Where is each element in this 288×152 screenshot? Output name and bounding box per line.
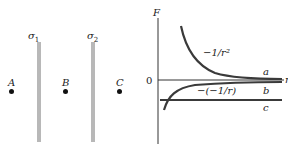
y-axis-label: F — [153, 8, 160, 18]
curve-b-expression: −(−1/r) — [197, 86, 236, 96]
origin-label: 0 — [146, 76, 152, 86]
curve-b-label: b — [263, 86, 269, 96]
curve-a-expression: −1/r² — [203, 48, 230, 58]
x-axis-label: r — [285, 75, 288, 85]
curve-a-label: a — [263, 67, 269, 77]
curve-c-label: c — [263, 103, 269, 113]
force-graph — [0, 0, 288, 152]
